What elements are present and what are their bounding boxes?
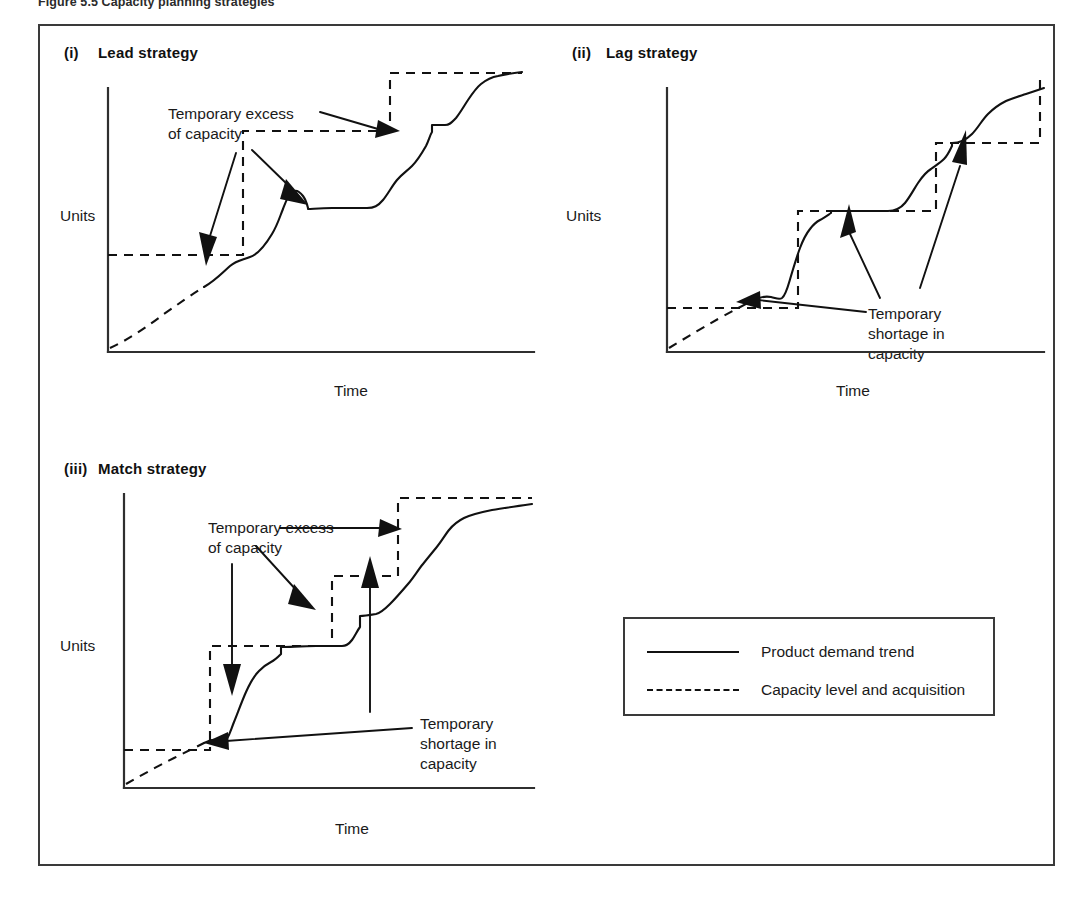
annotation-leader-line-top bbox=[320, 112, 378, 129]
annotation-leader-line-left bbox=[226, 728, 412, 741]
annotation-arrowhead-top bbox=[375, 120, 400, 138]
annotation-leader-line-left bbox=[758, 300, 866, 312]
capacity-step-line bbox=[124, 498, 532, 750]
annotation-leader-line-up-mid bbox=[850, 234, 880, 298]
legend-row-capacity: Capacity level and acquisition bbox=[625, 673, 993, 707]
legend-box: Product demand trend Capacity level and … bbox=[623, 617, 995, 716]
annotation-leader-line-middle bbox=[256, 546, 298, 592]
legend-row-demand: Product demand trend bbox=[625, 635, 993, 669]
annotation-arrowhead-middle bbox=[280, 179, 308, 205]
demand-trend-line bbox=[204, 72, 522, 287]
annotation-leader-line-middle bbox=[252, 150, 290, 187]
panel-lead-plot bbox=[40, 26, 548, 416]
demand-trend-line bbox=[754, 88, 1044, 300]
demand-trend-line bbox=[204, 504, 532, 743]
legend-label-demand: Product demand trend bbox=[761, 643, 914, 661]
legend-swatch-solid-line bbox=[647, 651, 739, 653]
annotation-leader-line-down bbox=[210, 153, 236, 236]
panel-match-strategy: (iii)Match strategy Units Time Temporary… bbox=[40, 436, 600, 856]
panel-lag-plot bbox=[548, 26, 1057, 416]
annotation-leader-line-up-top bbox=[920, 166, 960, 288]
figure-frame: (i)Lead strategy Units Time Temporary ex… bbox=[38, 24, 1055, 866]
panel-lead-strategy: (i)Lead strategy Units Time Temporary ex… bbox=[40, 26, 548, 416]
panel-lag-strategy: (ii)Lag strategy Units Time Temporary sh… bbox=[548, 26, 1057, 416]
annotation-arrowhead-down bbox=[199, 232, 217, 266]
demand-trend-initial-dashed bbox=[669, 300, 754, 348]
annotation-arrowhead-down bbox=[223, 664, 241, 696]
annotation-arrowhead-middle bbox=[288, 584, 316, 610]
annotation-arrowhead-up-mid bbox=[840, 204, 856, 238]
annotation-arrowhead-up bbox=[361, 556, 379, 588]
annotation-arrowhead-up-top bbox=[952, 130, 967, 165]
figure-caption: Figure 5.5 Capacity planning strategies bbox=[38, 0, 275, 9]
capacity-step-line bbox=[108, 73, 522, 255]
capacity-step-line bbox=[667, 78, 1040, 308]
panel-match-plot bbox=[40, 436, 600, 856]
legend-swatch-dashed-line bbox=[647, 689, 739, 691]
legend-label-capacity: Capacity level and acquisition bbox=[761, 681, 965, 699]
demand-trend-initial-dashed bbox=[110, 287, 204, 348]
